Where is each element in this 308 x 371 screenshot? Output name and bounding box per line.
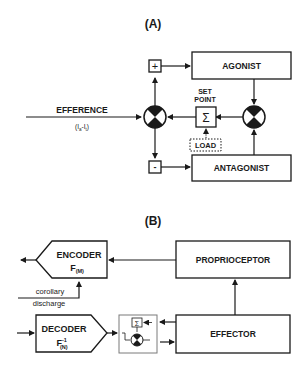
sigma-icon: Σ (202, 111, 209, 125)
corollary-label: corollary (36, 287, 65, 296)
efference-label: EFFERENCE (56, 105, 108, 115)
proprioceptor-block: PROPRIOCEPTOR (176, 241, 290, 278)
load-label: LOAD (195, 141, 217, 150)
antagonist-block: ANTAGONIST (192, 155, 291, 181)
effector-label: EFFECTOR (210, 329, 256, 339)
plus-icon: + (152, 60, 158, 72)
minus-icon: - (154, 162, 157, 172)
effector-block: EFFECTOR (176, 315, 290, 353)
encoder-label: ENCODER (56, 250, 102, 260)
diagram-canvas: (A) EFFERENCE (Ia-It) + - AGONI (0, 0, 308, 371)
decoder-label: DECODER (41, 324, 87, 334)
set-point-sum-block: Σ (196, 107, 216, 127)
proprioceptor-label: PROPRIOCEPTOR (196, 255, 270, 265)
inset-controller-block: Σ (119, 315, 157, 353)
right-comparator-icon (243, 106, 265, 128)
inset-sigma-icon: Σ (135, 320, 140, 327)
antagonist-label: ANTAGONIST (214, 163, 270, 173)
load-block: LOAD (190, 139, 221, 151)
set-point-label-line2: POINT (194, 96, 216, 103)
minus-box: - (149, 161, 161, 173)
agonist-label: AGONIST (222, 61, 262, 71)
agonist-block: AGONIST (192, 52, 291, 79)
decoder-block: DECODER F-1(N) (36, 315, 107, 352)
panel-b-title: (B) (145, 214, 162, 228)
efference-subscript: (Ia-It) (75, 123, 89, 132)
plus-box: + (149, 60, 161, 72)
panel-a: (A) EFFERENCE (Ia-It) + - AGONI (26, 17, 291, 181)
set-point-label-line1: SET (198, 88, 212, 95)
left-comparator-icon (144, 106, 166, 128)
panel-b: (B) ENCODER F(M) PROPRIOCEPTOR corollary… (17, 214, 290, 353)
inset-comparator-icon (131, 334, 143, 346)
discharge-label: discharge (33, 299, 66, 308)
encoder-block: ENCODER F(M) (36, 241, 107, 278)
panel-a-title: (A) (145, 17, 162, 31)
